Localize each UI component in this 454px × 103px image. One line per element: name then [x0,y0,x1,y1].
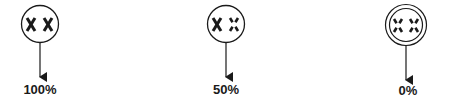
cell-none: 0% [386,5,427,99]
cell-circle [208,6,245,43]
cell-circle [22,6,59,43]
solid-x-icon [44,18,52,31]
broken-x-icon [410,19,418,32]
percent-label: 0% [399,83,418,98]
cell-full: 100% [22,6,59,98]
broken-x-icon [230,18,238,31]
diagram-canvas: 100% 50% [0,0,454,103]
cell-inner-circle [390,9,423,42]
percent-label: 100% [23,82,57,97]
cell-half: 50% [208,6,245,98]
broken-x-icon [394,19,402,32]
solid-x-icon [27,18,35,31]
percent-label: 50% [213,82,239,97]
solid-x-icon [213,18,221,31]
cell-outer-circle [386,5,427,46]
